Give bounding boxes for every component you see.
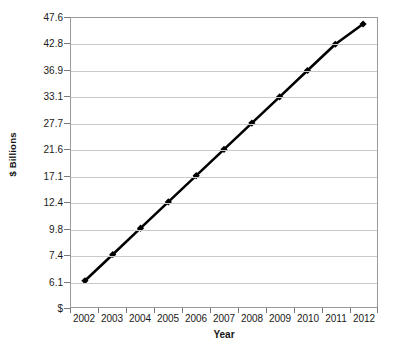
x-axis-tick-label: 2011 [325,313,347,324]
gridline [71,150,377,151]
y-axis-tick-label: 7.4 [49,250,63,261]
line-chart: $ Billions $6.17.49.812.417.121.627.733.… [0,0,403,347]
y-axis-tick-label: 12.4 [44,197,63,208]
gridline [71,44,377,45]
y-axis-tick-labels: $6.17.49.812.417.121.627.733.136.942.847… [22,0,68,347]
y-axis-tick-label: 9.8 [49,223,63,234]
x-axis-tick-label: 2012 [353,313,375,324]
plot-area [70,17,378,308]
x-axis-tick-label: 2008 [241,313,263,324]
y-axis-tick-label: 42.8 [44,38,63,49]
y-axis-tick-label: 36.9 [44,64,63,75]
x-axis-tick-labels: 2002200320042005200620072008200920102011… [70,313,378,329]
x-axis-tick-label: 2003 [101,313,123,324]
y-axis-title-label: $ Billions [7,132,18,176]
gridline [71,283,377,284]
y-axis-tick-label: 47.6 [44,12,63,23]
x-axis-tick-label: 2002 [73,313,95,324]
x-axis-tick-label: 2010 [297,313,319,324]
y-axis-tick-label: 33.1 [44,91,63,102]
y-axis-tick-label: $ [57,303,63,314]
y-axis-tick-label: 27.7 [44,117,63,128]
x-axis-tick-label: 2004 [129,313,151,324]
x-axis-tick-label: 2007 [213,313,235,324]
x-axis-tick-label: 2009 [269,313,291,324]
gridline [71,177,377,178]
y-axis-tick-label: 17.1 [44,170,63,181]
gridline [71,256,377,257]
gridline [71,203,377,204]
gridline [71,97,377,98]
x-axis-tick-label: 2006 [185,313,207,324]
x-axis-title: Year [70,329,378,340]
series-line-group [71,18,377,307]
x-axis-tick-label: 2005 [157,313,179,324]
gridline [71,71,377,72]
y-axis-tick-label: 6.1 [49,276,63,287]
gridline [71,124,377,125]
y-axis-tick-label: 21.6 [44,144,63,155]
y-axis-title: $ Billions [2,0,22,308]
gridline [71,230,377,231]
